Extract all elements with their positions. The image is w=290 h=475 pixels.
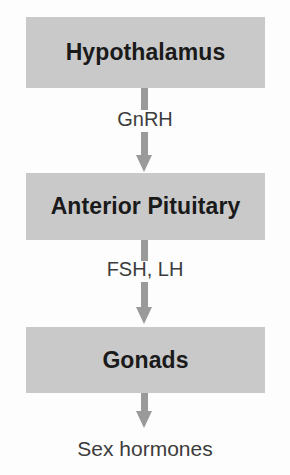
arrow-gnrh-head-icon (136, 155, 152, 172)
node-anterior-pituitary-label: Anterior Pituitary (51, 193, 241, 220)
node-anterior-pituitary: Anterior Pituitary (26, 173, 265, 240)
hpg-axis-flowchart: Hypothalamus GnRH Anterior Pituitary FSH… (0, 0, 290, 475)
arrow-gnrh-shaft-upper (141, 88, 148, 110)
arrow-gnrh-shaft-lower (141, 132, 148, 156)
arrow-fsh-lh-head-icon (136, 307, 152, 324)
node-sex-hormones-label: Sex hormones (0, 437, 290, 461)
arrow-sex-hormones-shaft (141, 393, 148, 413)
node-gonads: Gonads (26, 327, 265, 393)
edge-label-fsh-lh: FSH, LH (0, 258, 290, 281)
node-gonads-label: Gonads (102, 347, 188, 374)
arrow-fsh-lh-shaft-lower (141, 282, 148, 308)
arrow-sex-hormones-head-icon (136, 411, 152, 428)
node-hypothalamus: Hypothalamus (26, 17, 265, 88)
edge-label-gnrh: GnRH (0, 108, 290, 131)
node-hypothalamus-label: Hypothalamus (66, 39, 226, 66)
